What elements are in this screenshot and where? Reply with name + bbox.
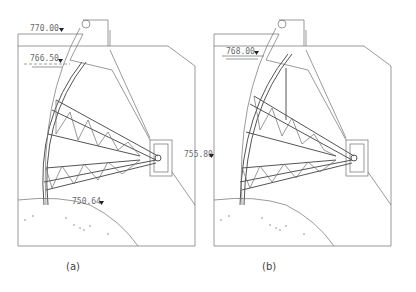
sill-elevation-label: 750.64 <box>72 197 101 206</box>
skin-plate <box>47 62 86 205</box>
sill-profile <box>214 198 334 246</box>
panel-caption: (b) <box>262 261 276 272</box>
elevation-marker-icon <box>59 28 64 32</box>
hoist-icon <box>82 20 90 28</box>
pier-outline <box>214 30 391 246</box>
hoist-icon <box>278 20 286 28</box>
panel-b: 768.00 (b) <box>214 20 391 272</box>
concrete-dots <box>220 215 305 235</box>
elevation-label: 770.00 <box>30 24 59 33</box>
panel-caption: (a) <box>66 261 80 272</box>
concrete-dots <box>24 215 109 235</box>
water-level-label: 766.50 <box>30 54 59 63</box>
skin-plate <box>244 54 292 205</box>
radial-gate-drawing: 770.00 766.50 755.80 750.64 (a) <box>0 0 416 292</box>
water-level-label: 768.00 <box>226 47 255 56</box>
trunnion-elevation-label: 755.80 <box>184 150 213 159</box>
panel-a: 770.00 766.50 755.80 750.64 (a) <box>18 20 214 272</box>
